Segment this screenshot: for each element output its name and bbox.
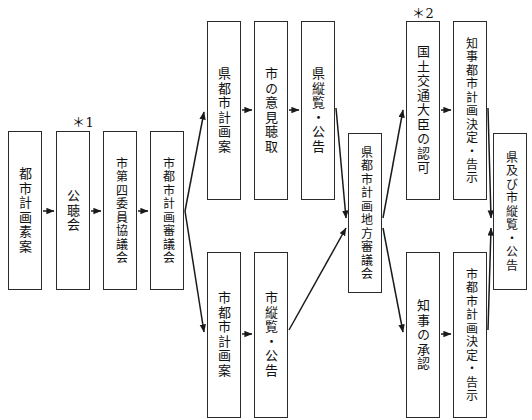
node-shi-toshi-keikaku-an[interactable]: 市都市計画案 <box>207 252 241 418</box>
node-ken-oyobi-shi-juran-kokoku[interactable]: 県及び市縦覧・公告 <box>493 133 527 290</box>
node-shi-juran-kokoku[interactable]: 市縦覧・公告 <box>254 252 288 418</box>
node-ken-toshi-keikaku-an[interactable]: 県都市計画案 <box>207 21 241 200</box>
edge-n7-n10 <box>336 108 346 218</box>
edge-n9-n10 <box>289 228 346 330</box>
node-toshi-keikaku-soan[interactable]: 都市計画素案 <box>8 131 42 290</box>
node-kokudo-kotsu-daijin-no-ninka[interactable]: 国土交通大臣の認可 <box>406 21 440 200</box>
edge-n14-n15 <box>488 228 491 330</box>
node-shi-toshi-keikaku-shingikai[interactable]: 市都市計画審議会 <box>150 131 184 290</box>
node-kochokai[interactable]: 公聴会 <box>56 131 90 290</box>
node-shi-toshi-keikaku-kettei-kokuji[interactable]: 市都市計画決定・告示 <box>453 252 487 418</box>
flowchart-canvas: 都市計画素案 公聴会 市第四委員協議会 市都市計画審議会 県都市計画案 市の意見… <box>0 0 532 420</box>
edge-n12-n15 <box>488 108 491 218</box>
footnote-marker-1: ＊1 <box>72 112 94 131</box>
edge-n4-n8 <box>185 211 204 332</box>
edge-n10-n13 <box>383 228 403 332</box>
edge-n4-n5 <box>185 112 204 211</box>
node-shi-no-iken-chosyu[interactable]: 市の意見聴取 <box>254 21 288 200</box>
footnote-marker-2: ＊2 <box>412 3 434 22</box>
node-ken-juran-kokoku[interactable]: 県縦覧・公告 <box>301 21 335 200</box>
edge-n10-n11 <box>383 110 403 218</box>
node-ken-toshi-keikaku-chiho-shingikai[interactable]: 県都市計画地方審議会 <box>348 133 382 293</box>
node-chiji-toshi-keikaku-kettei-kokuji[interactable]: 知事都市計画決定・告示 <box>453 21 487 200</box>
node-shi-dai4-iin-kyogikai[interactable]: 市第四委員協議会 <box>103 131 137 290</box>
node-chiji-no-shonin[interactable]: 知事の承認 <box>406 252 440 418</box>
